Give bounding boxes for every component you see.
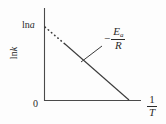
x-axis-denominator: T — [147, 107, 157, 119]
y-intercept-prefix: ln — [22, 19, 30, 30]
y-axis-label: lnk — [9, 33, 19, 73]
arrhenius-plot-figure: lna lnk 0 −EaR 1T — [0, 0, 166, 124]
slope-fraction: EaR — [111, 26, 125, 52]
origin-label: 0 — [33, 99, 38, 109]
slope-denominator: R — [111, 40, 125, 52]
x-axis-fraction: 1T — [147, 94, 157, 118]
x-axis-label: 1T — [147, 94, 157, 118]
y-intercept-variable: a — [30, 19, 35, 30]
y-intercept-label: lna — [22, 20, 35, 30]
y-axis-prefix: ln — [8, 51, 19, 59]
extrapolation-dotted-line — [45, 27, 66, 45]
y-axis-variable: k — [8, 47, 19, 51]
slope-numerator: Ea — [111, 26, 125, 40]
x-axis-numerator: 1 — [147, 94, 157, 107]
arrhenius-line — [65, 44, 129, 100]
slope-numerator-subscript: a — [120, 31, 124, 39]
slope-minus-sign: − — [104, 33, 111, 44]
slope-numerator-variable: E — [113, 25, 120, 37]
slope-annotation: −EaR — [104, 26, 125, 52]
slope-leader-line — [81, 46, 102, 62]
